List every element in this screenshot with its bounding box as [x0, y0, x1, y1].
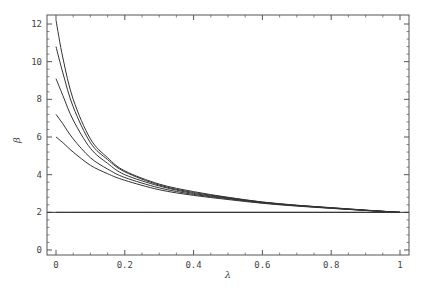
y-tick-label: 8 [37, 94, 42, 104]
plot-frame [47, 15, 409, 255]
series-curve-2 [56, 47, 400, 213]
x-axis-label: λ [224, 269, 231, 280]
y-tick-label: 10 [31, 57, 42, 67]
x-tick-label: 0.2 [117, 260, 133, 270]
series-curve-5 [56, 137, 400, 212]
chart: 024681012 00.20.40.60.81 λ β [0, 0, 429, 288]
x-tick-label: 0.4 [185, 260, 201, 270]
x-tick-label: 0 [53, 260, 58, 270]
x-tick-label: 0.8 [323, 260, 339, 270]
y-axis-label: β [11, 137, 22, 144]
y-tick-label: 2 [37, 207, 42, 217]
y-tick-label: 6 [37, 132, 42, 142]
series-curve-3 [56, 79, 400, 213]
y-tick-label: 12 [31, 19, 42, 29]
series-lines [47, 20, 409, 212]
x-tick-label: 1 [397, 260, 402, 270]
y-axis-ticks: 024681012 [31, 19, 409, 255]
series-curve-1 [56, 20, 400, 212]
x-tick-label: 0.6 [254, 260, 270, 270]
y-tick-label: 0 [37, 245, 42, 255]
x-axis-ticks: 00.20.40.60.81 [53, 15, 402, 270]
y-tick-label: 4 [37, 170, 42, 180]
